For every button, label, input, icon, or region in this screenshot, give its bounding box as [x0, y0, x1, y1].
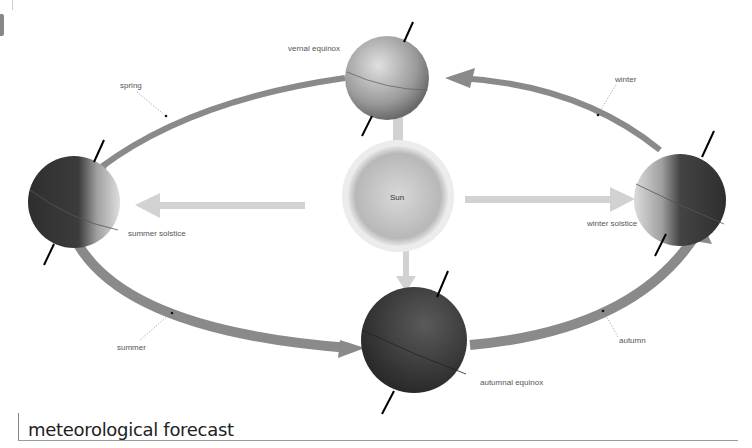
earth-vernal-equinox-icon — [345, 22, 429, 136]
earth-winter-solstice-icon — [634, 131, 726, 256]
page-title: meteorological forecast — [28, 419, 234, 440]
label-winter: winter — [615, 75, 636, 84]
label-summer-solstice: summer solstice — [128, 229, 186, 238]
footer-rule — [18, 440, 738, 441]
label-spring: spring — [120, 81, 142, 90]
footer-tick — [18, 413, 19, 441]
earth-autumnal-equinox-icon — [361, 271, 467, 414]
earth-summer-solstice-icon — [28, 140, 120, 265]
label-sun: Sun — [390, 193, 404, 202]
label-vernal-equinox: vernal equinox — [288, 44, 340, 53]
label-autumn: autumn — [619, 336, 646, 345]
label-winter-solstice: winter solstice — [587, 219, 637, 228]
orbit-svg — [0, 0, 752, 448]
label-autumnal-equinox: autumnal equinox — [480, 378, 543, 387]
label-summer: summer — [117, 343, 146, 352]
seasons-diagram: vernal equinox summer solstice autumnal … — [0, 0, 752, 448]
